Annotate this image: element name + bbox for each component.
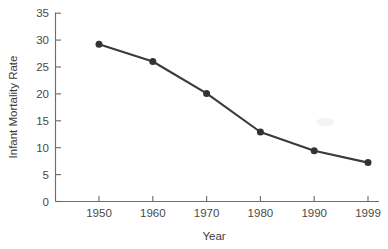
- y-tick-label: 20: [36, 88, 49, 100]
- y-tick-label: 5: [43, 169, 49, 181]
- x-axis-tick-labels: 1950 1960 1970 1980 1990 1999: [86, 207, 381, 219]
- data-point: [257, 129, 264, 136]
- x-tick-label: 1970: [194, 207, 220, 219]
- data-point: [96, 41, 103, 48]
- y-tick-label: 10: [36, 142, 49, 154]
- x-tick-label: 1999: [355, 207, 381, 219]
- chart-container: 0 5 10 15 20 25 30 35 1950 1960 1970 198…: [0, 0, 388, 249]
- x-tick-label: 1990: [301, 207, 327, 219]
- line-chart: 0 5 10 15 20 25 30 35 1950 1960 1970 198…: [0, 0, 388, 249]
- y-axis-tick-labels: 0 5 10 15 20 25 30 35: [36, 7, 49, 207]
- y-axis-ticks: [56, 13, 62, 201]
- y-tick-label: 25: [36, 61, 49, 73]
- x-axis-title: Year: [202, 230, 225, 242]
- y-tick-label: 15: [36, 115, 49, 127]
- x-tick-label: 1980: [248, 207, 274, 219]
- data-point: [311, 147, 318, 154]
- data-point: [149, 58, 156, 65]
- y-tick-label: 0: [43, 196, 49, 208]
- data-point: [203, 90, 210, 97]
- y-tick-label: 30: [36, 34, 49, 46]
- x-axis-ticks: [99, 196, 368, 202]
- x-tick-label: 1950: [86, 207, 112, 219]
- y-axis-title: Infant Mortality Rate: [7, 56, 19, 159]
- scan-artifact: [316, 118, 334, 126]
- series-line-infant-mortality: [99, 44, 368, 162]
- series-markers: [96, 41, 372, 166]
- y-tick-label: 35: [36, 7, 49, 19]
- x-tick-label: 1960: [140, 207, 166, 219]
- data-point: [365, 159, 372, 166]
